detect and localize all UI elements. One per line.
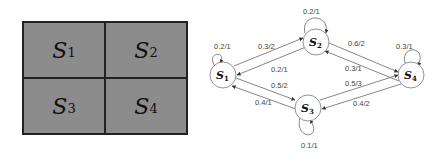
edge-label-s2-s4: 0.6/2 bbox=[348, 39, 365, 48]
edge-label-s4-s4: 0.3/1 bbox=[396, 42, 413, 51]
edge-label-s2-s2: 0.2/1 bbox=[303, 7, 320, 16]
edge-label-s1-s3: 0.5/2 bbox=[271, 81, 288, 90]
edge-label-s3-s4: 0.5/3 bbox=[345, 79, 362, 88]
edge-label-s4-s3: 0.4/2 bbox=[353, 99, 370, 108]
edge-label-s3-s3: 0.1/1 bbox=[301, 141, 318, 150]
edge-s4-s2 bbox=[325, 51, 399, 81]
edge-label-s2-s1: 0.2/1 bbox=[271, 65, 288, 74]
edge-label-s4-s2: 0.3/1 bbox=[345, 64, 362, 73]
edge-label-s1-s1: 0.2/1 bbox=[214, 42, 231, 51]
edge-label-s1-s2: 0.3/2 bbox=[258, 42, 275, 51]
state-transition-diagram: S1 S2 S3 S4 0.2/1 0.2/1 0.3/1 0.1/1 0.3/… bbox=[0, 0, 429, 156]
edge-label-s3-s1: 0.4/1 bbox=[255, 98, 272, 107]
